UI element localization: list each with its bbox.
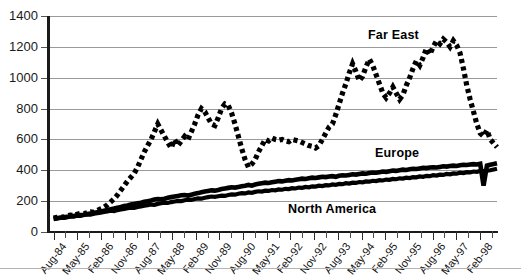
series-label-north-america: North America [288,202,376,216]
series-path-north-america [54,169,497,219]
series-label-europe: Europe [375,146,419,160]
series-lines [0,0,521,279]
bottom-divider [0,268,521,269]
line-chart: 0200400600800100012001400 Aug-84May-85Fe… [0,0,521,279]
series-label-far-east: Far East [368,28,419,42]
